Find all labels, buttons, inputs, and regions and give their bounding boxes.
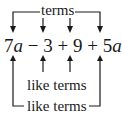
operator-minus: −: [28, 35, 39, 56]
terms-label: terms: [41, 3, 74, 18]
term-7a: 7a: [4, 35, 23, 56]
like-terms-middle-label: like terms: [27, 78, 87, 93]
term-3: 3: [43, 35, 53, 56]
term-5a: 5a: [103, 35, 122, 56]
expression: 7a − 3 + 9 + 5a: [4, 36, 122, 55]
operator-plus: +: [87, 35, 98, 56]
operator-plus: +: [57, 35, 68, 56]
like-terms-bottom-label: like terms: [27, 99, 87, 114]
term-9: 9: [73, 35, 83, 56]
